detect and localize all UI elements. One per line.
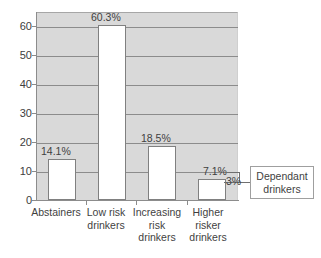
x-tick-mark-0: [86, 201, 87, 205]
gridline-40: [36, 85, 238, 86]
bar-value-abstainers: 14.1%: [41, 146, 71, 157]
x-label-higher-risker-drinkers: Higher risker drinkers: [178, 206, 238, 244]
x-label-higher-risker-drinkers-line2: risker: [178, 219, 238, 232]
bar-chart: 60 50 40 30 20 10 0 14.1% 60.3% 18.5% 7.…: [0, 0, 321, 258]
x-label-higher-risker-drinkers-line1: Higher: [178, 206, 238, 219]
callout-line2: drinkers: [251, 183, 313, 196]
gridline-50: [36, 56, 238, 57]
y-tick-mark-30: [32, 113, 36, 114]
bar-value-low-risk-drinkers: 60.3%: [91, 12, 121, 23]
bar-higher-risker-drinkers[interactable]: [198, 179, 226, 200]
x-tick-mark-1: [136, 201, 137, 205]
y-tick-mark-60: [32, 26, 36, 27]
y-tick-label-50: 50: [6, 50, 32, 61]
y-axis-line: [36, 12, 37, 201]
bar-low-risk-drinkers[interactable]: [98, 25, 126, 200]
y-tick-label-0: 0: [6, 195, 32, 206]
bar-value-increasing-risk-drinkers: 18.5%: [141, 133, 171, 144]
y-tick-label-20: 20: [6, 137, 32, 148]
y-tick-mark-0: [32, 200, 36, 201]
bar-abstainers[interactable]: [48, 159, 76, 200]
bar-value-higher-risker-drinkers: 7.1%: [203, 166, 227, 177]
y-tick-label-60: 60: [6, 21, 32, 32]
leader-line-horizontal-upper: [226, 172, 239, 173]
y-tick-label-40: 40: [6, 79, 32, 90]
callout-line1: Dependant: [251, 170, 313, 183]
x-axis-line: [36, 200, 239, 201]
callout-dependant-drinkers[interactable]: Dependant drinkers: [250, 166, 314, 199]
y-tick-mark-20: [32, 142, 36, 143]
y-tick-label-10: 10: [6, 166, 32, 177]
y-tick-mark-50: [32, 55, 36, 56]
y-tick-mark-10: [32, 171, 36, 172]
x-tick-mark-2: [187, 201, 188, 205]
x-label-higher-risker-drinkers-line3: drinkers: [178, 231, 238, 244]
y-tick-mark-40: [32, 84, 36, 85]
gridline-20: [36, 143, 238, 144]
bar-increasing-risk-drinkers[interactable]: [148, 146, 176, 200]
annotation-label-3-percent: 3%: [226, 176, 241, 187]
gridline-60: [36, 27, 238, 28]
gridline-30: [36, 114, 238, 115]
y-tick-label-30: 30: [6, 108, 32, 119]
